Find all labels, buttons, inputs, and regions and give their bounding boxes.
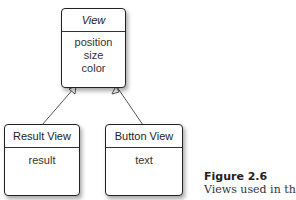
button-view-title: Button View bbox=[106, 125, 182, 148]
view-attr-color: color bbox=[62, 62, 125, 75]
view-class-title: View bbox=[62, 9, 125, 32]
result-view-class-box: Result View result bbox=[4, 124, 80, 196]
result-view-title: Result View bbox=[5, 125, 79, 148]
figure-number: Figure 2.6 bbox=[204, 170, 296, 183]
view-class-box: View position size color bbox=[61, 8, 126, 88]
figure-caption: Figure 2.6 Views used in th bbox=[204, 170, 296, 196]
button-view-class-box: Button View text bbox=[105, 124, 183, 196]
result-view-attr-result: result bbox=[5, 154, 79, 167]
figure-caption-text: Views used in th bbox=[204, 183, 296, 196]
view-attr-position: position bbox=[62, 36, 125, 49]
view-attr-size: size bbox=[62, 49, 125, 62]
button-view-attr-text: text bbox=[106, 154, 182, 167]
